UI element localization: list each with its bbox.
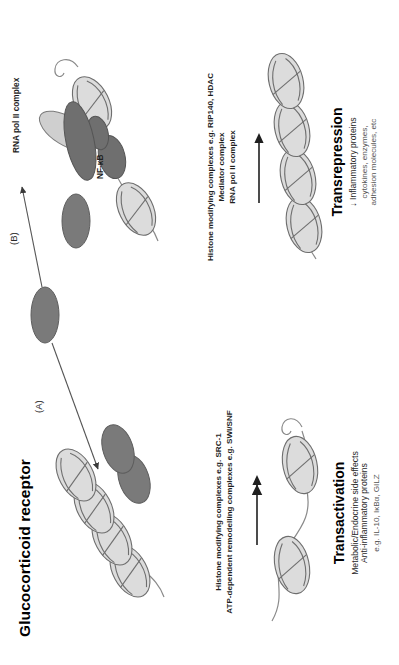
pathway-b-cofactors: Histone modifying complexes e.g. RIP140,… bbox=[206, 37, 237, 297]
label-rna-pol-ii: RNA pol II complex bbox=[12, 78, 21, 153]
figure-root: Glucocorticoid receptor (A) (B) bbox=[0, 0, 399, 665]
outcome-examples: adhesion molecules, etc bbox=[369, 37, 378, 287]
cofactor-line: RNA pol II complex bbox=[228, 37, 237, 297]
gr-free-b bbox=[62, 194, 90, 248]
panel-label-a: (A) bbox=[34, 400, 45, 413]
panel-label-b: (B) bbox=[9, 232, 20, 245]
outcome-title-transactivation: Transactivation bbox=[332, 379, 348, 647]
cofactor-line: ATP-dependent remodelling complexes e.g.… bbox=[225, 397, 234, 627]
cofactor-line: Mediator complex bbox=[217, 37, 226, 297]
pathway-b-outcome: Transrepression ↓ Inflammatory proteins … bbox=[330, 37, 378, 287]
outcome-examples: cytokines, enzymes, bbox=[360, 37, 369, 287]
panel-b-complex bbox=[30, 27, 180, 267]
diagram-canvas: Glucocorticoid receptor (A) (B) bbox=[0, 0, 399, 665]
outcome-line: Anti-inflammatory proteins bbox=[360, 379, 370, 647]
outcome-line: ↓ Inflammatory proteins bbox=[349, 37, 359, 287]
outcome-title-transrepression: Transrepression bbox=[330, 37, 346, 287]
panel-a-outcome-chromatin bbox=[262, 397, 338, 627]
cofactor-line: Histone modifying complexes e.g. RIP140,… bbox=[206, 37, 215, 297]
panel-a-complex bbox=[38, 415, 178, 605]
outcome-examples: e.g. IL-10, IκBα, GILZ bbox=[372, 379, 381, 647]
pathway-a-cofactors: Histone modifying complexes e.g. SRC-1 A… bbox=[214, 397, 234, 627]
pathway-a-outcome: Transactivation Metabolic/Endocrine side… bbox=[332, 379, 381, 647]
panel-b-outcome-chromatin bbox=[260, 43, 340, 273]
label-nfkb: NF-κB bbox=[96, 155, 105, 179]
cofactor-line: Histone modifying complexes e.g. SRC-1 bbox=[214, 397, 223, 627]
